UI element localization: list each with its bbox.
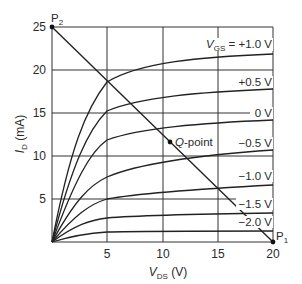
label-vgs-0: 0 V [255, 107, 273, 119]
x-tick-20: 20 [266, 247, 280, 261]
p1-point [271, 240, 276, 245]
label-vgs-minus-2-0: −2.0 V [238, 216, 272, 228]
q-point-marker [168, 140, 173, 145]
q-point-label: Q-point [175, 136, 214, 148]
y-tick-15: 15 [33, 106, 47, 120]
x-axis-title: VDS (V) [149, 265, 187, 281]
label-vgs-minus-1-0: −1.0 V [238, 170, 272, 182]
x-tick-5: 5 [104, 247, 111, 261]
p1-label: P1 [276, 230, 289, 245]
y-axis-ticks: 5 10 15 20 25 [33, 20, 47, 206]
y-tick-10: 10 [33, 149, 47, 163]
x-tick-15: 15 [211, 247, 225, 261]
y-tick-5: 5 [39, 192, 46, 206]
y-axis-title: ID (mA) [13, 115, 29, 153]
x-tick-10: 10 [156, 247, 170, 261]
y-tick-25: 25 [33, 20, 47, 34]
jfet-characteristic-chart: 5 10 15 20 25 5 10 15 20 VDS (V) ID (mA)… [0, 0, 302, 284]
p2-label: P2 [51, 12, 64, 27]
label-vgs-plus-0-5: +0.5 V [238, 76, 272, 88]
p2-point [50, 25, 55, 30]
x-axis-ticks: 5 10 15 20 [104, 247, 280, 261]
y-tick-20: 20 [33, 63, 47, 77]
label-vgs-minus-1-5: −1.5 V [238, 198, 272, 210]
label-vgs-minus-0-5: −0.5 V [238, 137, 272, 149]
